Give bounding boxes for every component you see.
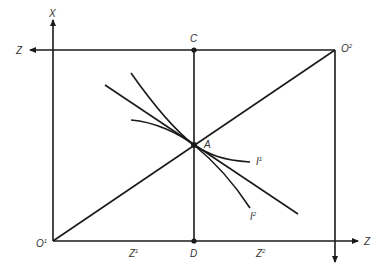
label-i1: I1 — [256, 156, 262, 167]
indifference-curve-i2 — [131, 73, 250, 208]
edgeworth-box-diagram: X Z C O2 A I1 I2 O1 Z1 D Z2 Z — [0, 0, 388, 273]
label-i2: I2 — [250, 211, 257, 222]
label-o2: O2 — [341, 43, 353, 54]
label-z-right: Z — [363, 236, 371, 247]
label-x-axis: X — [48, 8, 56, 19]
label-z1: Z1 — [128, 248, 138, 259]
label-o1: O1 — [36, 238, 47, 249]
label-z-left: Z — [15, 45, 23, 56]
label-d: D — [190, 248, 197, 259]
indifference-curve-i1 — [131, 120, 250, 162]
point-a-dot — [191, 142, 197, 148]
point-c-dot — [191, 47, 196, 52]
label-c: C — [190, 33, 198, 44]
label-z2: Z2 — [255, 248, 266, 259]
point-d-dot — [191, 238, 196, 243]
label-a: A — [203, 139, 211, 150]
